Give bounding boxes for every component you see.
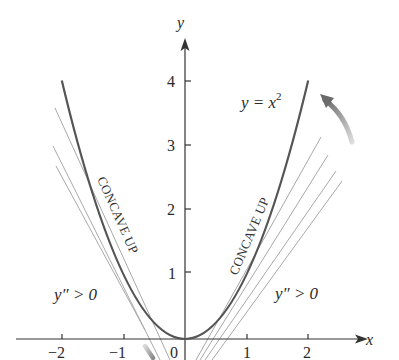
lower-arrow-icon	[145, 346, 153, 358]
curve-equation-label: y = x2	[239, 90, 282, 112]
y-axis	[185, 46, 191, 360]
y-tick-2: 2	[167, 201, 175, 218]
y-tick-1: 1	[168, 265, 176, 282]
x-axis-label: x	[365, 331, 373, 348]
y-axis-label: y	[175, 14, 185, 32]
concavity-figure: y x 4 3 2 1 −2 −1 0 1 2 y = x2 CONCAVE U…	[0, 0, 399, 360]
y-tick-3: 3	[167, 137, 175, 154]
x-tick-1: 1	[243, 344, 251, 360]
x-tick-neg1: −1	[109, 344, 126, 360]
direction-arrow-icon	[320, 94, 352, 142]
y-tick-4: 4	[167, 73, 175, 90]
left-second-derivative-condition: y″ > 0	[52, 285, 98, 304]
right-second-derivative-condition: y″ > 0	[273, 284, 319, 303]
right-tangent-lines	[196, 137, 342, 360]
x-tick-neg2: −2	[48, 344, 65, 360]
x-tick-2: 2	[303, 344, 311, 360]
x-tick-0: 0	[170, 344, 178, 360]
